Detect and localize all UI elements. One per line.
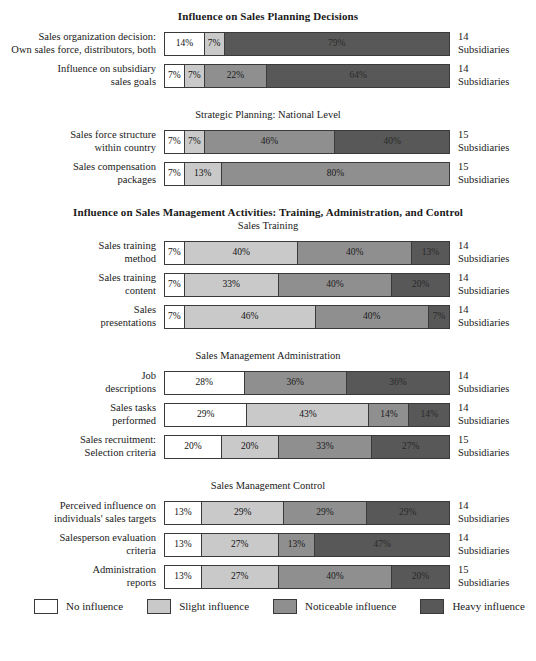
bar-segment-lvl3: 27%	[372, 436, 449, 458]
bar-segment-lvl1: 40%	[185, 242, 299, 264]
legend-item-lvl0: No influence	[34, 599, 123, 614]
bar-segment-lvl3: 13%	[412, 242, 449, 264]
row-label-line: Sales training	[0, 240, 156, 253]
bar-segment-lvl1: 7%	[205, 33, 225, 55]
stacked-bar: 13%27%40%20%	[164, 565, 450, 589]
section-title: Influence on Sales Management Activities…	[0, 206, 536, 219]
row-subsidiary-count: 14Subsidiaries	[450, 272, 528, 297]
chart-row: Salespresentations7%46%40%7%14Subsidiari…	[0, 304, 536, 329]
chart-row: Administrationreports13%27%40%20%15Subsi…	[0, 564, 536, 589]
stacked-bar: 13%27%13%47%	[164, 533, 450, 557]
row-label: Salesperson evaluationcriteria	[0, 532, 164, 557]
bar-segment-lvl3: 20%	[392, 566, 449, 588]
row-label-line: Sales compensation	[0, 161, 156, 174]
stacked-bar: 7%46%40%7%	[164, 305, 450, 329]
subsidiary-count-number: 15	[458, 564, 528, 577]
chart-section: Sales Management ControlPerceived influe…	[0, 466, 536, 589]
bar-segment-lvl2: 29%	[284, 502, 366, 524]
row-label-line: Sales recruitment:	[0, 434, 156, 447]
spacer	[0, 336, 536, 349]
subsidiary-count-number: 14	[458, 240, 528, 253]
subsidiary-count-word: Subsidiaries	[458, 174, 528, 187]
bar-segment-lvl1: 46%	[185, 306, 316, 328]
row-label: Sales force structurewithin country	[0, 129, 164, 154]
chart-section: Strategic Planning: National LevelSales …	[0, 95, 536, 186]
spacer	[0, 466, 536, 479]
row-label-line: Sales force structure	[0, 129, 156, 142]
bar-segment-lvl2: 36%	[245, 372, 347, 394]
row-subsidiary-count: 15Subsidiaries	[450, 161, 528, 186]
row-label: Perceived influence onindividuals' sales…	[0, 500, 164, 525]
chart-row: Sales trainingcontent7%33%40%20%14Subsid…	[0, 272, 536, 297]
subsidiary-count-number: 14	[458, 402, 528, 415]
section-subtitle: Sales Management Administration	[0, 349, 536, 362]
bar-segment-lvl2: 46%	[205, 131, 336, 153]
subsidiary-count-number: 14	[458, 370, 528, 383]
subsidiary-count-word: Subsidiaries	[458, 76, 528, 89]
bar-segment-lvl1: 27%	[202, 566, 279, 588]
row-label: Sales trainingmethod	[0, 240, 164, 265]
bar-segment-lvl0: 13%	[165, 534, 202, 556]
subsidiary-count-number: 15	[458, 129, 528, 142]
legend-swatch-icon	[147, 599, 171, 614]
legend-swatch-icon	[273, 599, 297, 614]
row-label-line: Own sales force, distributors, both	[0, 44, 156, 57]
section-title: Influence on Sales Planning Decisions	[0, 10, 536, 23]
bar-segment-lvl3: 29%	[367, 502, 449, 524]
chart-section: Influence on Sales Management Activities…	[0, 193, 536, 329]
section-subtitle: Sales Training	[0, 219, 536, 232]
bar-segment-lvl3: 79%	[225, 33, 449, 55]
stacked-bar: 7%7%46%40%	[164, 130, 450, 154]
subsidiary-count-word: Subsidiaries	[458, 577, 528, 590]
legend-item-lvl3: Heavy influence	[420, 599, 524, 614]
bar-segment-lvl0: 28%	[165, 372, 245, 394]
row-label-line: content	[0, 285, 156, 298]
row-subsidiary-count: 14Subsidiaries	[450, 402, 528, 427]
bar-segment-lvl3: 7%	[429, 306, 449, 328]
row-label-line: Perceived influence on	[0, 500, 156, 513]
subsidiary-count-word: Subsidiaries	[458, 317, 528, 330]
row-label-line: descriptions	[0, 383, 156, 396]
stacked-bar: 29%43%14%14%	[164, 403, 450, 427]
row-label: Administrationreports	[0, 564, 164, 589]
bar-segment-lvl0: 13%	[165, 566, 202, 588]
bar-segment-lvl0: 7%	[165, 131, 185, 153]
row-subsidiary-count: 15Subsidiaries	[450, 564, 528, 589]
subsidiary-count-number: 14	[458, 272, 528, 285]
bar-segment-lvl3: 14%	[409, 404, 449, 426]
stacked-bar: 14%7%79%	[164, 32, 450, 56]
stacked-bar: 28%36%36%	[164, 371, 450, 395]
bar-segment-lvl3: 64%	[267, 65, 449, 87]
chart-row: Sales compensationpackages7%13%80%15Subs…	[0, 161, 536, 186]
bar-segment-lvl1: 20%	[222, 436, 279, 458]
row-label-line: reports	[0, 577, 156, 590]
bar-segment-lvl3: 40%	[335, 131, 449, 153]
stacked-bar: 7%7%22%64%	[164, 64, 450, 88]
bar-segment-lvl0: 7%	[165, 163, 185, 185]
chart-row: Perceived influence onindividuals' sales…	[0, 500, 536, 525]
row-label-line: Sales organization decision:	[0, 31, 156, 44]
chart-section: Sales Management AdministrationJobdescri…	[0, 336, 536, 459]
row-label-line: within country	[0, 142, 156, 155]
subsidiary-count-word: Subsidiaries	[458, 447, 528, 460]
row-label-line: individuals' sales targets	[0, 513, 156, 526]
spacer	[0, 23, 536, 31]
subsidiary-count-word: Subsidiaries	[458, 142, 528, 155]
spacer	[0, 492, 536, 500]
row-label: Sales compensationpackages	[0, 161, 164, 186]
spacer	[0, 0, 536, 10]
bar-segment-lvl3: 47%	[315, 534, 448, 556]
subsidiary-count-word: Subsidiaries	[458, 415, 528, 428]
row-subsidiary-count: 14Subsidiaries	[450, 500, 528, 525]
row-label: Salespresentations	[0, 304, 164, 329]
chart-legend: No influenceSlight influenceNoticeable i…	[0, 599, 536, 614]
subsidiary-count-word: Subsidiaries	[458, 285, 528, 298]
legend-item-lvl1: Slight influence	[147, 599, 249, 614]
subsidiary-count-number: 15	[458, 161, 528, 174]
row-label-line: Influence on subsidiary	[0, 63, 156, 76]
bar-segment-lvl2: 13%	[279, 534, 316, 556]
bar-segment-lvl2: 40%	[279, 566, 393, 588]
bar-segment-lvl1: 7%	[185, 65, 205, 87]
row-subsidiary-count: 14Subsidiaries	[450, 240, 528, 265]
subsidiary-count-number: 14	[458, 31, 528, 44]
